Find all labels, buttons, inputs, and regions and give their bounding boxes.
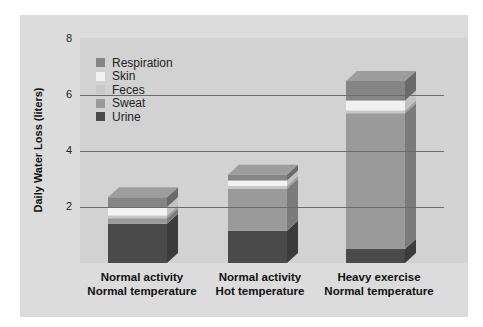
legend-item-urine: Urine bbox=[96, 110, 173, 124]
gridline-2 bbox=[80, 207, 444, 208]
legend-swatch bbox=[96, 112, 105, 121]
bar-1-top-face bbox=[108, 187, 178, 197]
bar-1-sweat-segment bbox=[108, 218, 167, 224]
bar-3-urine-segment bbox=[346, 249, 405, 263]
legend-label: Urine bbox=[112, 110, 141, 124]
legend-item-sweat: Sweat bbox=[96, 97, 173, 111]
x-label-line: Heavy exercise bbox=[309, 270, 449, 284]
bar-3-top-face bbox=[346, 71, 416, 81]
legend-label: Feces bbox=[112, 83, 145, 97]
legend-swatch bbox=[96, 58, 105, 67]
x-label-3: Heavy exercise Normal temperature bbox=[309, 270, 449, 298]
bar-2-sweat-segment bbox=[228, 189, 287, 231]
legend-swatch bbox=[96, 85, 105, 94]
legend-item-skin: Skin bbox=[96, 70, 173, 84]
legend-item-feces: Feces bbox=[96, 83, 173, 97]
bar-2-skin-segment bbox=[228, 180, 287, 186]
gridline-4 bbox=[80, 151, 444, 152]
legend-label: Skin bbox=[112, 69, 135, 83]
bar-1-respiration-segment bbox=[108, 197, 167, 207]
bar-2-urine-segment bbox=[228, 231, 287, 263]
legend-label: Sweat bbox=[112, 96, 145, 110]
bar-2-respiration-segment bbox=[228, 175, 287, 181]
x-label-line: Normal temperature bbox=[309, 284, 449, 298]
bar-1-urine-segment bbox=[108, 224, 167, 263]
legend-swatch bbox=[96, 99, 105, 108]
legend-swatch bbox=[96, 72, 105, 81]
bar-2-top-face bbox=[228, 165, 298, 175]
legend: Respiration Skin Feces Sweat Urine bbox=[96, 56, 173, 124]
bar-2-feces-segment bbox=[228, 186, 287, 189]
legend-item-respiration: Respiration bbox=[96, 56, 173, 70]
bar-3-skin-segment bbox=[346, 101, 405, 111]
bar-3-feces-segment bbox=[346, 110, 405, 113]
legend-label: Respiration bbox=[112, 56, 173, 70]
bar-1-skin-segment bbox=[108, 207, 167, 215]
bar-3-sweat-segment-side bbox=[405, 103, 416, 249]
bar-3-respiration-segment bbox=[346, 81, 405, 101]
bar-1-feces-segment bbox=[108, 215, 167, 218]
bar-3-sweat-segment bbox=[346, 113, 405, 249]
